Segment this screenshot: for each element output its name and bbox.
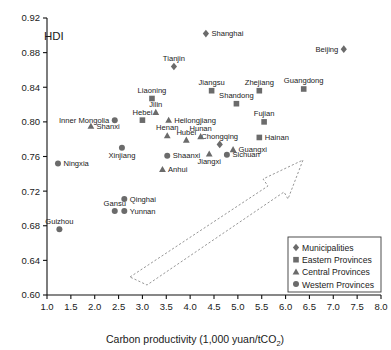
x-axis-title-tail: ) <box>281 333 285 345</box>
y-tick-label: 0.60 <box>22 289 41 300</box>
data-point-label: Fujian <box>254 109 275 118</box>
chart-svg: 1.01.52.02.53.03.54.04.55.05.56.06.57.07… <box>0 0 391 350</box>
x-axis-title: Carbon productivity (1,000 yuan/tCO2) <box>106 333 284 348</box>
data-point-label: Chongqing <box>201 132 238 141</box>
diamond-marker-icon <box>217 141 223 149</box>
circle-marker-icon <box>55 160 61 166</box>
data-point: Jiangxi <box>197 150 221 166</box>
x-tick-label: 8.0 <box>374 301 387 312</box>
diamond-marker-icon <box>203 30 209 38</box>
x-tick-label: 7.5 <box>351 301 364 312</box>
data-point-label: Hunan <box>189 124 211 133</box>
data-point: Guangdong <box>284 76 324 91</box>
legend-circle-marker-icon <box>293 281 299 287</box>
diamond-marker-icon <box>341 45 347 53</box>
triangle-marker-icon <box>159 166 166 172</box>
data-point: Shanghai <box>203 29 244 38</box>
data-point: Tianjin <box>163 54 185 70</box>
data-point-label: Gansu <box>104 199 126 208</box>
legend-item-label: Municipalities <box>302 243 354 253</box>
x-tick-label: 5.5 <box>255 301 268 312</box>
triangle-marker-icon <box>164 132 171 138</box>
y-tick-label: 0.84 <box>22 82 41 93</box>
data-point-label: Jilin <box>149 100 162 109</box>
circle-marker-icon <box>56 226 62 232</box>
circle-marker-icon <box>224 152 230 158</box>
legend-square-marker-icon <box>293 257 299 263</box>
data-point-label: Guizhou <box>45 217 73 226</box>
data-point-label: Anhui <box>168 165 188 174</box>
x-axis-ticks: 1.01.52.02.53.03.54.04.55.05.56.06.57.07… <box>40 295 387 312</box>
square-marker-icon <box>234 101 240 107</box>
data-point-label: Jiangxi <box>197 157 221 166</box>
triangle-marker-icon <box>206 150 213 156</box>
data-point: Anhui <box>159 165 188 174</box>
circle-marker-icon <box>112 117 118 123</box>
data-point-label: Beijing <box>315 45 338 54</box>
circle-marker-icon <box>164 153 170 159</box>
x-tick-label: 3.0 <box>136 301 149 312</box>
square-marker-icon <box>261 119 267 125</box>
data-point-label: Xinjiang <box>108 151 135 160</box>
x-tick-label: 4.0 <box>184 301 197 312</box>
x-tick-label: 3.5 <box>160 301 173 312</box>
data-point-label: Shaanxi <box>173 151 201 160</box>
trend-arrow-annotation <box>130 160 303 285</box>
data-point: Fujian <box>254 109 275 124</box>
data-point-label: Shanghai <box>211 29 243 38</box>
x-tick-label: 6.5 <box>303 301 316 312</box>
data-point-label: Yunnan <box>130 207 156 216</box>
dashed-arrow-icon <box>130 160 303 285</box>
legend-item-label: Eastern Provinces <box>302 255 372 265</box>
x-tick-label: 2.5 <box>112 301 125 312</box>
data-point-label: Henan <box>156 123 178 132</box>
data-point-label: Liaoning <box>138 86 167 95</box>
data-point-label: Inner Mongolia <box>59 116 110 125</box>
triangle-marker-icon <box>183 137 190 143</box>
y-tick-label: 0.88 <box>22 47 41 58</box>
x-axis-title-main: Carbon productivity (1,000 yuan/tCO <box>106 333 276 345</box>
data-point-label: Hainan <box>265 133 289 142</box>
circle-marker-icon <box>112 208 118 214</box>
data-point-label: Ningxia <box>63 159 89 168</box>
x-tick-label: 1.0 <box>40 301 53 312</box>
data-point: Yunnan <box>121 207 155 216</box>
data-points: ShanghaiBeijingTianjinChongqingLiaoningS… <box>45 29 347 232</box>
data-point: Shaanxi <box>164 151 200 160</box>
data-point: Xinjiang <box>108 145 135 160</box>
data-point-label: Jiangsu <box>199 78 225 87</box>
legend-item-label: Western Provinces <box>302 280 374 290</box>
y-tick-label: 0.92 <box>22 12 41 23</box>
x-tick-label: 2.0 <box>88 301 101 312</box>
y-axis-title: HDI <box>44 30 64 42</box>
circle-marker-icon <box>121 208 127 214</box>
triangle-marker-icon <box>152 109 159 115</box>
data-point-label: Guangdong <box>284 76 324 85</box>
data-point-label: Tianjin <box>163 54 185 63</box>
scatter-chart: 1.01.52.02.53.03.54.04.55.05.56.06.57.07… <box>0 0 391 350</box>
data-point-label: Hebei <box>133 108 153 117</box>
data-point: Ningxia <box>55 159 90 168</box>
data-point: Chongqing <box>201 132 238 148</box>
chart-legend: MunicipalitiesEastern ProvincesCentral P… <box>288 237 381 292</box>
data-point: Sichuan <box>224 150 260 159</box>
x-tick-label: 7.0 <box>327 301 340 312</box>
y-tick-label: 0.72 <box>22 186 41 197</box>
square-marker-icon <box>140 117 146 123</box>
square-marker-icon <box>301 86 307 92</box>
triangle-marker-icon <box>165 117 172 123</box>
y-tick-label: 0.68 <box>22 220 41 231</box>
y-tick-label: 0.64 <box>22 255 41 266</box>
data-point: Guizhou <box>45 217 73 233</box>
data-point: Hebei <box>133 108 153 123</box>
square-marker-icon <box>257 135 263 141</box>
x-tick-label: 4.5 <box>207 301 220 312</box>
diamond-marker-icon <box>171 63 177 71</box>
data-point: Beijing <box>315 45 346 54</box>
data-point: Hainan <box>257 133 289 142</box>
x-tick-label: 5.0 <box>231 301 244 312</box>
x-tick-label: 6.0 <box>279 301 292 312</box>
data-point-label: Qinghai <box>130 195 156 204</box>
y-tick-label: 0.76 <box>22 151 41 162</box>
legend-item-label: Central Provinces <box>302 267 370 277</box>
